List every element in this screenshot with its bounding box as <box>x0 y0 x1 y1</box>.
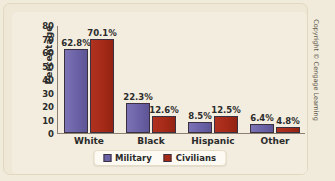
y-tick: 50 <box>32 63 54 71</box>
x-axis-label: Hispanic <box>183 136 243 146</box>
bar-value-label: 22.3% <box>123 92 153 102</box>
bar-wrapper: 12.5% <box>214 26 238 133</box>
bar-wrapper: 12.6% <box>152 26 176 133</box>
x-axis-labels: WhiteBlackHispanicOther <box>59 136 305 146</box>
bar-value-label: 6.4% <box>250 113 274 123</box>
y-axis-line <box>57 26 58 134</box>
chart-figure: Percentage 80 70 60 50 40 30 20 10 0 62.… <box>0 0 335 181</box>
legend-item-military[interactable]: Military <box>103 153 152 163</box>
bar-group: 6.4%4.8% <box>245 26 305 133</box>
legend-swatch-icon <box>164 154 172 162</box>
y-axis-ticks: 80 70 60 50 40 30 20 10 0 <box>32 26 54 134</box>
bar[interactable] <box>276 127 300 133</box>
legend-label: Civilians <box>176 153 216 163</box>
bar-wrapper: 70.1% <box>90 26 114 133</box>
y-tick: 30 <box>32 90 54 98</box>
legend-label: Military <box>115 153 152 163</box>
plot-area: 62.8%70.1%22.3%12.6%8.5%12.5%6.4%4.8% <box>57 26 305 134</box>
bar-group: 8.5%12.5% <box>183 26 243 133</box>
bar-value-label: 12.5% <box>211 105 241 115</box>
bar[interactable] <box>214 116 238 133</box>
y-tick: 60 <box>32 49 54 57</box>
x-axis-line <box>57 133 305 134</box>
chart-legend: Military Civilians <box>93 150 226 166</box>
bar-wrapper: 62.8% <box>64 26 88 133</box>
bar[interactable] <box>126 103 150 133</box>
bar-group: 22.3%12.6% <box>121 26 181 133</box>
plot-panel: Percentage 80 70 60 50 40 30 20 10 0 62.… <box>12 12 307 174</box>
bar-wrapper: 8.5% <box>188 26 212 133</box>
bar[interactable] <box>188 122 212 133</box>
x-axis-label: Black <box>121 136 181 146</box>
bar-value-label: 62.8% <box>61 38 91 48</box>
bar[interactable] <box>90 39 114 133</box>
copyright-notice: Copyright © Cengage Learning <box>312 15 320 125</box>
bar-value-label: 4.8% <box>276 116 300 126</box>
bar-wrapper: 22.3% <box>126 26 150 133</box>
bar-wrapper: 6.4% <box>250 26 274 133</box>
chart-frame: Percentage 80 70 60 50 40 30 20 10 0 62.… <box>3 3 308 175</box>
bar[interactable] <box>64 49 88 133</box>
y-tick: 0 <box>32 130 54 138</box>
y-tick: 10 <box>32 117 54 125</box>
bar-wrapper: 4.8% <box>276 26 300 133</box>
bar-groups: 62.8%70.1%22.3%12.6%8.5%12.5%6.4%4.8% <box>59 26 305 133</box>
bar-value-label: 70.1% <box>87 28 117 38</box>
legend-item-civilians[interactable]: Civilians <box>164 153 216 163</box>
bar[interactable] <box>250 124 274 133</box>
bar-group: 62.8%70.1% <box>59 26 119 133</box>
y-tick: 20 <box>32 103 54 111</box>
bar[interactable] <box>152 116 176 133</box>
bar-value-label: 12.6% <box>149 105 179 115</box>
y-tick: 80 <box>32 22 54 30</box>
legend-swatch-icon <box>103 154 111 162</box>
bar-value-label: 8.5% <box>188 111 212 121</box>
x-axis-label: White <box>59 136 119 146</box>
y-tick: 70 <box>32 36 54 44</box>
x-axis-label: Other <box>245 136 305 146</box>
y-tick: 40 <box>32 76 54 84</box>
